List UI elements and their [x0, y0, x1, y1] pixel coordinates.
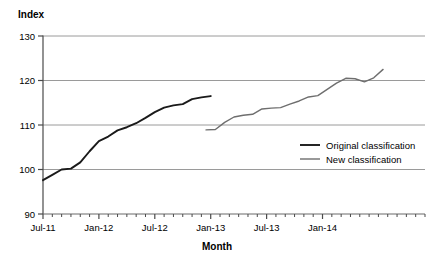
y-tick-label-100: 100 — [19, 164, 35, 175]
y-tick-label-110: 110 — [20, 120, 35, 131]
y-axis-title: Index — [18, 9, 45, 20]
series-line-0 — [43, 96, 211, 180]
y-tick-label-90: 90 — [24, 209, 35, 220]
legend-label-0: Original classification — [326, 140, 415, 151]
x-tick-label-5: Jan-14 — [308, 222, 337, 233]
legend: Original classificationNew classificatio… — [300, 140, 415, 165]
x-tick-label-4: Jul-13 — [254, 222, 280, 233]
legend-label-1: New classification — [326, 154, 402, 165]
x-tick-label-3: Jan-13 — [196, 222, 225, 233]
series-line-1 — [206, 69, 383, 130]
y-tick-label-130: 130 — [19, 31, 35, 42]
x-tick-label-1: Jan-12 — [84, 222, 113, 233]
line-chart: 90100110120130Jul-11Jan-12Jul-12Jan-13Ju… — [0, 0, 434, 261]
x-axis-title: Month — [202, 241, 232, 252]
chart-container: 90100110120130Jul-11Jan-12Jul-12Jan-13Ju… — [0, 0, 434, 261]
y-tick-label-120: 120 — [19, 75, 35, 86]
x-tick-label-0: Jul-11 — [30, 222, 55, 233]
x-tick-label-2: Jul-12 — [142, 222, 168, 233]
